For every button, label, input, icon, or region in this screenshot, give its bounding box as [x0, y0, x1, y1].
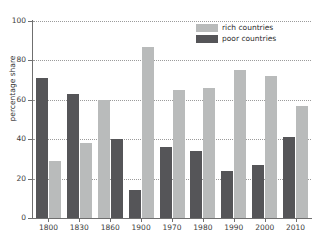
chart-legend: rich countriespoor countries	[196, 24, 276, 43]
bar-1980-rich[interactable]	[203, 88, 215, 218]
x-tick-mark-1990	[234, 219, 235, 222]
bar-2010-rich[interactable]	[296, 106, 308, 218]
legend-swatch-rich-icon	[196, 24, 218, 32]
x-tick-label-1830: 1830	[64, 224, 95, 232]
bar-group-2000	[249, 21, 280, 218]
bar-1860-rich[interactable]	[98, 100, 110, 218]
bar-1980-poor[interactable]	[190, 151, 202, 218]
x-tick-label-1800: 1800	[33, 224, 64, 232]
bar-group-1980	[187, 21, 218, 218]
bar-1970-poor[interactable]	[160, 147, 172, 218]
bar-2000-poor[interactable]	[252, 165, 264, 218]
bar-1860-poor[interactable]	[111, 139, 123, 218]
x-tick-mark-1830	[79, 219, 80, 222]
bar-1990-poor[interactable]	[221, 171, 233, 218]
bar-groups	[33, 21, 311, 218]
x-tick-label-1860: 1860	[95, 224, 126, 232]
bar-group-1990	[218, 21, 249, 218]
bar-group-1800	[33, 21, 64, 218]
bar-group-1830	[64, 21, 95, 218]
bar-group-1860	[95, 21, 126, 218]
x-tick-mark-1980	[203, 219, 204, 222]
bar-1800-rich[interactable]	[49, 161, 61, 218]
bar-1900-rich[interactable]	[142, 47, 154, 218]
x-tick-label-1970: 1970	[157, 224, 188, 232]
x-tick-label-1980: 1980	[187, 224, 218, 232]
x-tick-label-2010: 2010	[280, 224, 311, 232]
legend-swatch-poor-icon	[196, 35, 218, 43]
y-tick-label-0: 0	[4, 214, 26, 222]
x-tick-label-1990: 1990	[218, 224, 249, 232]
legend-item-rich[interactable]: rich countries	[196, 24, 276, 32]
bar-chart: percentage share 020406080100 1800183018…	[0, 0, 323, 251]
x-tick-mark-1860	[110, 219, 111, 222]
x-tick-mark-2000	[265, 219, 266, 222]
bar-1990-rich[interactable]	[234, 70, 246, 218]
bar-1830-poor[interactable]	[67, 94, 79, 218]
y-tick-label-20: 20	[4, 175, 26, 183]
bar-1900-poor[interactable]	[129, 190, 141, 218]
bar-2000-rich[interactable]	[265, 76, 277, 218]
bar-1830-rich[interactable]	[80, 143, 92, 218]
bar-2010-poor[interactable]	[283, 137, 295, 218]
x-tick-label-2000: 2000	[249, 224, 280, 232]
bar-group-1900	[126, 21, 157, 218]
x-tick-mark-2010	[296, 219, 297, 222]
x-tick-mark-1800	[48, 219, 49, 222]
y-tick-label-100: 100	[4, 17, 26, 25]
bar-1970-rich[interactable]	[173, 90, 185, 218]
x-tick-mark-1900	[141, 219, 142, 222]
legend-label-poor: poor countries	[222, 35, 276, 43]
legend-label-rich: rich countries	[222, 24, 273, 32]
bar-group-1970	[157, 21, 188, 218]
bar-group-2010	[280, 21, 311, 218]
legend-item-poor[interactable]: poor countries	[196, 35, 276, 43]
x-tick-label-1900: 1900	[126, 224, 157, 232]
x-axis-tick-labels: 180018301860190019701980199020002010	[33, 224, 311, 232]
x-tick-mark-1970	[172, 219, 173, 222]
plot-area	[33, 21, 311, 218]
y-axis-title: percentage share	[8, 29, 17, 149]
bar-1800-poor[interactable]	[36, 78, 48, 218]
